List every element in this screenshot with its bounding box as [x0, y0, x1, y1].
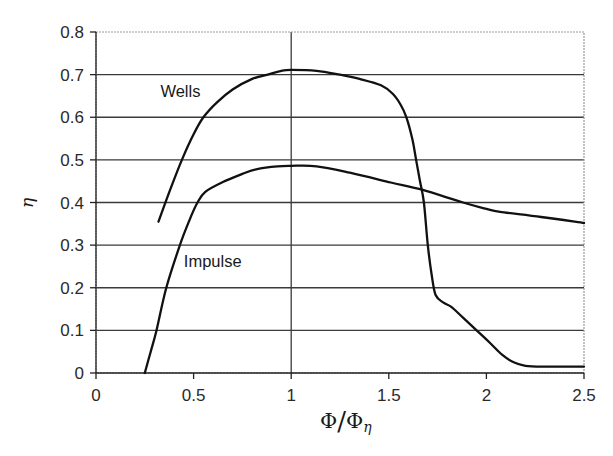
series-label-wells: Wells — [160, 82, 200, 100]
x-tick-label: 1.5 — [377, 386, 401, 405]
y-tick-label: 0.8 — [60, 23, 84, 42]
x-tick-label: 1 — [286, 386, 295, 405]
series-line-wells — [159, 70, 585, 367]
x-axis-title: Φ/Φη — [320, 406, 372, 436]
x-tick-label: 0 — [91, 386, 100, 405]
y-tick-label: 0.7 — [60, 66, 84, 85]
y-axis-title: η — [17, 197, 37, 208]
x-tick-label: 0.5 — [182, 386, 206, 405]
x-tick-label: 2 — [482, 386, 491, 405]
y-tick-label: 0.3 — [60, 236, 84, 255]
y-tick-label: 0.1 — [60, 321, 84, 340]
series-curves — [145, 70, 584, 373]
y-tick-label: 0 — [75, 364, 84, 383]
y-tick-label: 0.4 — [60, 194, 84, 213]
y-tick-label: 0.6 — [60, 108, 84, 127]
y-tick-label: 0.5 — [60, 151, 84, 170]
series-labels: WellsImpulse — [160, 82, 241, 271]
y-tick-label: 0.2 — [60, 279, 84, 298]
chart: WellsImpulse 00.10.20.30.40.50.60.70.800… — [0, 0, 613, 456]
x-tick-label: 2.5 — [572, 386, 596, 405]
series-label-impulse: Impulse — [184, 252, 242, 270]
